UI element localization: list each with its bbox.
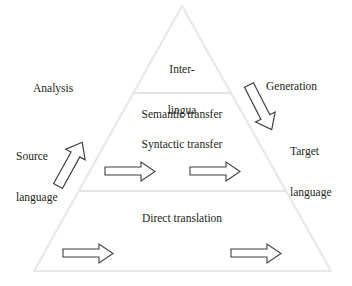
target-language-label: Target language	[290, 118, 332, 227]
interlingua-label: Inter- lingua	[168, 36, 197, 145]
source-language-line-2: language	[16, 191, 58, 205]
syntactic-transfer-label: Syntactic transfer	[142, 138, 223, 152]
diagram-canvas: Inter- lingua Semantic transfer Syntacti…	[0, 0, 352, 286]
generation-label: Generation	[266, 80, 317, 94]
analysis-label: Analysis	[33, 82, 73, 96]
source-language-line-1: Source	[16, 150, 58, 164]
semantic-transfer-label: Semantic transfer	[142, 108, 223, 122]
target-language-line-2: language	[290, 186, 332, 200]
interlingua-line-1: Inter-	[168, 63, 197, 77]
source-language-label: Source language	[16, 123, 58, 232]
direct-translation-label: Direct translation	[142, 212, 222, 226]
target-language-line-1: Target	[290, 145, 332, 159]
